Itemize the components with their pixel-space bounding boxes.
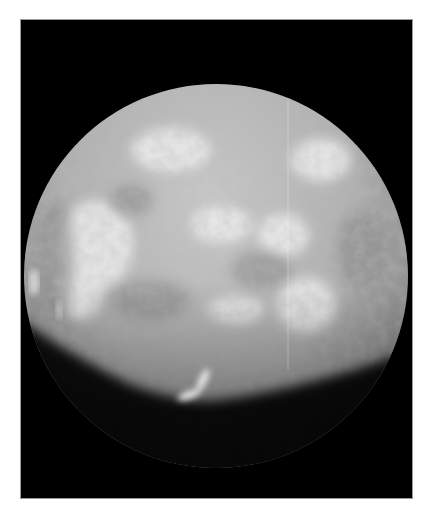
photo-frame: Grayscale photograph of a cratered moon,…	[21, 20, 412, 498]
moon-photo	[21, 20, 412, 498]
